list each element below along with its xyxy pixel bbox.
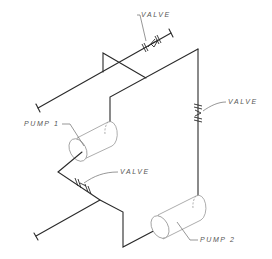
label-pump-2: PUMP 2 — [200, 236, 235, 244]
leader-valve-right — [203, 102, 226, 111]
end-cap-top-left — [36, 104, 40, 112]
middle-pipe — [110, 49, 198, 205]
label-valve-top: VALVE — [141, 11, 171, 19]
bottom-pipe — [34, 152, 163, 247]
leader-valve-bottom — [84, 172, 118, 183]
pump-2-icon — [147, 195, 206, 241]
end-cap-bottom-left — [34, 233, 38, 240]
piping-diagram — [0, 0, 272, 259]
pump-1-icon — [65, 122, 117, 165]
triangle-bend — [103, 53, 146, 78]
end-cap-top-right — [169, 29, 173, 37]
label-valve-bottom: VALVE — [120, 168, 150, 176]
label-valve-right: VALVE — [228, 98, 258, 106]
label-pump-1: PUMP 1 — [24, 120, 59, 128]
